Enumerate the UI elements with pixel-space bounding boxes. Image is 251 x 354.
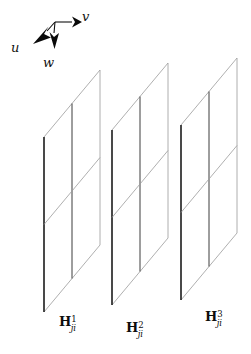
plane-group-2	[112, 63, 168, 305]
plane-group-1	[44, 70, 100, 312]
w-arrow-icon	[50, 32, 60, 49]
plane-label-2: H2ji	[126, 320, 149, 337]
figure-canvas: u v w H1ji H2ji H3ji	[0, 0, 251, 354]
coordinate-triad	[33, 17, 82, 50]
axis-label-v: v	[82, 10, 89, 23]
plane-label-1-symbol: H	[59, 314, 71, 329]
axis-label-u: u	[11, 41, 19, 54]
plane-label-2-symbol: H	[126, 320, 138, 335]
plane-label-3: H3ji	[205, 309, 228, 326]
axis-label-w: w	[43, 56, 54, 69]
plane-group-3	[181, 58, 237, 300]
diagram-svg	[0, 0, 251, 354]
plane-label-1-subscript: ji	[71, 323, 76, 333]
plane-label-1: H1ji	[59, 314, 82, 331]
plane-label-2-subscript: ji	[138, 329, 143, 339]
plane-label-3-symbol: H	[205, 309, 217, 324]
v-arrow-icon	[72, 17, 82, 28]
plane-label-3-subscript: ji	[217, 318, 222, 328]
